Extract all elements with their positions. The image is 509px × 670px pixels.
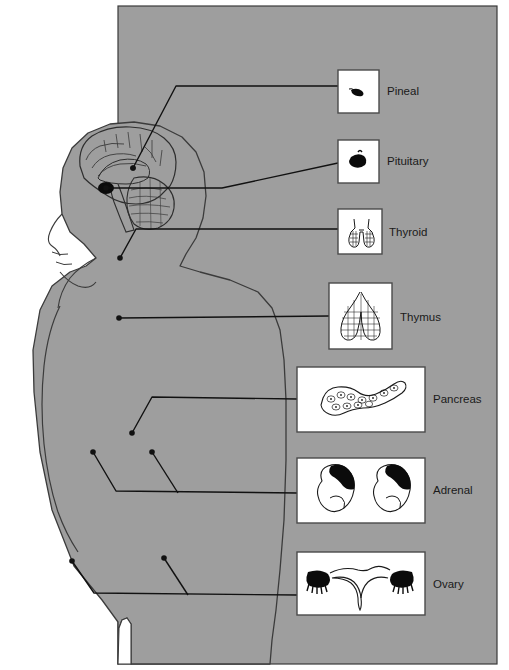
gland-label-thyroid: Thyroid [389,226,427,238]
leader-dot-ovary-2 [161,555,167,561]
leader-dot-adrenal-2 [149,449,155,455]
leader-dot-ovary-1 [69,558,75,564]
gland-label-pituitary: Pituitary [387,155,429,167]
gland-box-thyroid[interactable] [338,209,382,254]
gland-box-thymus[interactable] [329,283,392,349]
leader-dot-pituitary-1 [103,185,109,191]
leader-dot-thymus-1 [116,315,122,321]
leader-dot-pineal-1 [130,165,136,171]
gland-label-thymus: Thymus [400,311,441,323]
gland-box-ovary[interactable] [297,552,425,615]
gland-box-pancreas[interactable] [297,367,425,432]
gland-box-pineal[interactable] [338,70,379,113]
leader-dot-pancreas-1 [129,430,135,436]
gland-label-adrenal: Adrenal [433,484,473,496]
gland-box-adrenal[interactable] [297,458,425,523]
endocrine-system-figure: Pineal Pituitary Thy [0,0,509,670]
gland-label-pancreas: Pancreas [433,393,482,405]
legs-gap [118,618,131,664]
gland-label-pineal: Pineal [387,85,419,97]
gland-label-ovary: Ovary [433,578,464,590]
leader-dot-adrenal-1 [90,449,96,455]
gland-box-pituitary[interactable] [338,140,379,183]
leader-dot-thyroid-1 [117,255,123,261]
